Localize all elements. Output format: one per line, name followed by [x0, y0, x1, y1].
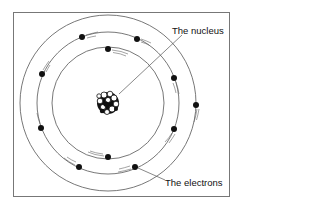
electrons-leader-line — [138, 168, 165, 180]
nucleus — [97, 91, 119, 114]
nucleus-leader-line — [119, 35, 182, 94]
electrons-label: The electrons — [165, 177, 223, 188]
nucleus-label: The nucleus — [172, 25, 224, 36]
